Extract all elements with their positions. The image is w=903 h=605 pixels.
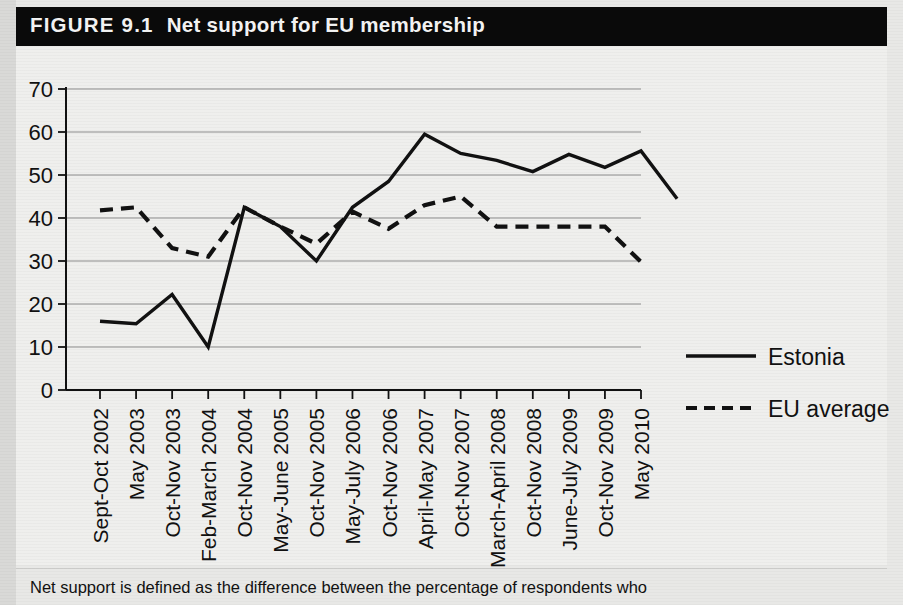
y-tick-label: 10 [29, 335, 53, 360]
x-tick-label: May-June 2005 [269, 408, 292, 553]
y-tick-label: 50 [29, 163, 53, 188]
y-tick-label: 40 [29, 206, 53, 231]
figure-title-text: Net support for EU membership [167, 13, 486, 36]
x-tick-label: June-July 2009 [558, 408, 581, 550]
figure-number: FIGURE 9.1 [30, 13, 154, 36]
series-line-eu-average [100, 197, 641, 262]
x-tick-label: May 2010 [630, 408, 653, 500]
y-axis-labels: 010203040506070 [29, 77, 53, 403]
x-tick-label: Feb-March 2004 [197, 408, 220, 562]
y-tick-label: 20 [29, 292, 53, 317]
x-tick-label: Oct-Nov 2009 [594, 408, 617, 538]
figure-container: FIGURE 9.1Net support for EU membership … [0, 0, 903, 605]
x-tick-label: Oct-Nov 2004 [233, 408, 256, 538]
y-tick-label: 0 [41, 378, 53, 403]
x-tick-label: Oct-Nov 2008 [522, 408, 545, 538]
line-chart: 010203040506070Sept-Oct 2002May 2003Oct-… [0, 46, 903, 576]
caption-divider [16, 568, 887, 569]
figure-title: FIGURE 9.1Net support for EU membership [30, 13, 485, 37]
x-tick-label: May 2003 [125, 408, 148, 500]
y-tick-label: 70 [29, 77, 53, 102]
x-tick-label: May-July 2006 [341, 408, 364, 545]
series-line-estonia [100, 134, 677, 347]
chart-area: 010203040506070Sept-Oct 2002May 2003Oct-… [0, 46, 903, 576]
legend-label-eu-average: EU average [768, 396, 889, 422]
x-tick-label: Oct-Nov 2003 [161, 408, 184, 538]
x-axis-labels: Sept-Oct 2002May 2003Oct-Nov 2003Feb-Mar… [89, 408, 653, 568]
legend: EstoniaEU average [686, 344, 889, 422]
x-tick-label: Oct-Nov 2005 [305, 408, 328, 538]
y-tick-label: 60 [29, 120, 53, 145]
x-tick-label: April-May 2007 [414, 408, 437, 549]
x-tick-label: March-April 2008 [486, 408, 509, 568]
axes [58, 87, 641, 399]
data-series [100, 134, 677, 347]
x-tick-label: Oct-Nov 2006 [378, 408, 401, 538]
y-tick-label: 30 [29, 249, 53, 274]
x-tick-label: Sept-Oct 2002 [89, 408, 112, 543]
gridlines [66, 89, 641, 390]
figure-caption: Net support is defined as the difference… [30, 578, 880, 597]
x-tick-label: Oct-Nov 2007 [450, 408, 473, 538]
legend-label-estonia: Estonia [768, 344, 845, 370]
